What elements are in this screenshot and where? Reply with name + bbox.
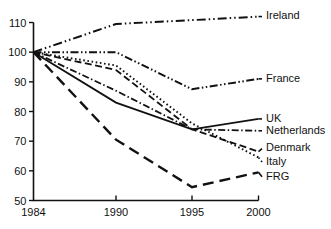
series-label-ireland: Ireland: [266, 9, 300, 21]
leader-frg: [259, 172, 263, 176]
series-line-ireland: [34, 17, 259, 53]
y-tick-label-110: 110: [9, 17, 27, 29]
series-leader-lines: [259, 17, 263, 177]
line-chart: 5060708090100110 1984199019952000 Irelan…: [0, 0, 331, 229]
x-tick-label-1984: 1984: [21, 206, 45, 218]
x-tick-label-1995: 1995: [180, 206, 204, 218]
series-labels: IrelandFranceUKNetherlandsDenmarkItalyFR…: [266, 9, 326, 181]
axis-lines: [34, 23, 259, 201]
series-label-netherlands: Netherlands: [266, 124, 326, 136]
series-lines: [34, 17, 259, 188]
series-label-uk: UK: [266, 112, 282, 124]
y-tick-label-60: 60: [14, 165, 26, 177]
y-tick-label-70: 70: [14, 135, 26, 147]
x-tick-labels: 1984199019952000: [21, 206, 270, 218]
x-tick-label-2000: 2000: [246, 206, 270, 218]
y-tick-label-90: 90: [14, 76, 26, 88]
y-tick-label-100: 100: [8, 46, 26, 58]
series-label-denmark: Denmark: [266, 141, 311, 153]
leader-denmark: [259, 149, 263, 152]
series-label-france: France: [266, 72, 300, 84]
series-label-frg: FRG: [266, 170, 289, 182]
leader-italy: [259, 157, 263, 161]
y-tick-label-80: 80: [14, 106, 26, 118]
series-line-netherlands: [34, 52, 259, 131]
chart-canvas: 5060708090100110 1984199019952000 Irelan…: [0, 0, 331, 229]
series-label-italy: Italy: [266, 155, 287, 167]
series-line-uk: [34, 52, 259, 129]
y-tick-labels: 5060708090100110: [8, 17, 26, 207]
x-tick-label-1990: 1990: [104, 206, 128, 218]
